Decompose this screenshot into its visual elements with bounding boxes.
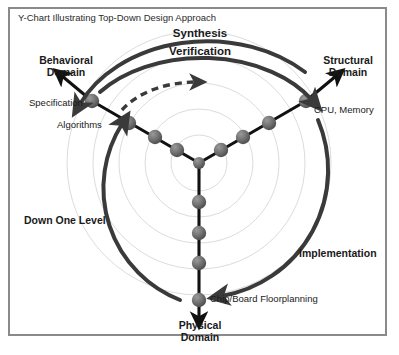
diagram-title: Y-Chart Illustrating Top-Down Design App… <box>18 13 216 24</box>
label-structural-domain: StructuralDomain <box>306 54 390 78</box>
label-synthesis: Synthesis <box>152 27 248 40</box>
dashed-verification-arc <box>122 82 196 110</box>
label-chip-board-floorplanning: Chip/Board Floorplanning <box>210 294 318 305</box>
node-behavioral-4 <box>122 116 136 130</box>
node-structural-4 <box>262 116 276 130</box>
label-algorithms: Algorithms <box>57 120 102 131</box>
diagram-page: Y-Chart Illustrating Top-Down Design App… <box>0 0 399 355</box>
node-structural-2 <box>214 143 228 157</box>
node-physical-3 <box>192 226 206 240</box>
node-physical-4 <box>192 256 206 270</box>
verification-arc <box>100 58 312 100</box>
label-cpu-memory: CPU, Memory <box>314 105 374 116</box>
node-center <box>193 157 205 169</box>
implementation-arc <box>222 120 328 296</box>
node-structural-3 <box>236 130 250 144</box>
node-behavioral-2 <box>170 143 184 157</box>
node-physical-2 <box>192 195 206 209</box>
label-behavioral-domain: BehavioralDomain <box>24 54 108 78</box>
label-physical-domain: PhysicalDomain <box>158 319 242 343</box>
label-implementation: Implementation <box>299 247 377 259</box>
node-behavioral-3 <box>148 130 162 144</box>
node-physical-5 <box>192 293 206 307</box>
label-verification: Verification <box>150 45 250 58</box>
down-one-level-arc <box>103 124 180 300</box>
label-specification: Specification <box>29 98 83 109</box>
label-down-one-level: Down One Level <box>24 214 106 226</box>
